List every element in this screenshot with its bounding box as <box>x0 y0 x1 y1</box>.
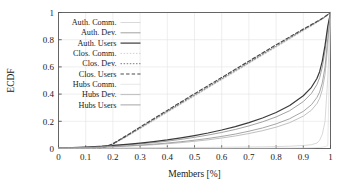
ecdf-chart: 00.10.20.30.40.50.60.70.80.9100.20.40.60… <box>0 0 347 189</box>
legend-label-5: Clos. Users <box>79 70 117 79</box>
x-tick-label: 0 <box>56 152 61 162</box>
y-tick-label: 0.2 <box>43 117 54 127</box>
y-tick-label: 0.8 <box>43 35 55 45</box>
legend-label-2: Auth. Users <box>77 39 116 48</box>
legend-label-0: Auth. Comm. <box>72 18 117 27</box>
x-tick-label: 0.8 <box>270 152 282 162</box>
y-tick-label: 0.4 <box>43 89 55 99</box>
x-tick-label: 0.2 <box>107 152 118 162</box>
x-tick-label: 0.7 <box>243 152 255 162</box>
chart-svg: 00.10.20.30.40.50.60.70.80.9100.20.40.60… <box>0 0 347 189</box>
legend-label-4: Clos. Dev. <box>82 59 116 68</box>
x-tick-label: 1 <box>328 152 333 162</box>
x-axis-title: Members [%] <box>168 169 221 179</box>
legend-label-7: Hubs Dev. <box>82 90 117 99</box>
legend-label-8: Hubs Users <box>79 101 117 110</box>
legend-label-6: Hubs Comm. <box>73 80 117 89</box>
legend-label-1: Auth. Dev. <box>81 28 117 37</box>
x-tick-label: 0.5 <box>189 152 201 162</box>
y-axis-title: ECDF <box>6 68 16 92</box>
x-tick-label: 0.1 <box>80 152 91 162</box>
y-tick-label: 1 <box>50 8 55 18</box>
x-tick-label: 0.3 <box>134 152 146 162</box>
x-tick-label: 0.4 <box>162 152 174 162</box>
chart-legend: Auth. Comm.Auth. Dev.Auth. UsersClos. Co… <box>72 18 141 109</box>
x-tick-label: 0.6 <box>216 152 228 162</box>
x-tick-label: 0.9 <box>298 152 310 162</box>
y-tick-label: 0.6 <box>43 62 55 72</box>
y-tick-label: 0 <box>50 144 55 154</box>
legend-label-3: Clos. Comm. <box>73 49 116 58</box>
